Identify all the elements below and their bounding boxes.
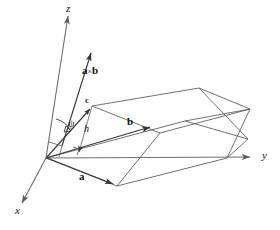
diagram-canvas xyxy=(0,0,280,230)
box-edge-top-left-front xyxy=(92,106,160,133)
x-axis-label: x xyxy=(15,205,20,216)
height-label-h: h xyxy=(84,124,89,134)
box-edge-top-back xyxy=(92,88,199,106)
y-axis xyxy=(46,157,250,158)
box-edge-bottom-right xyxy=(227,139,248,158)
angle-label-psi: ψ xyxy=(68,119,75,130)
box-edge-hidden-diag xyxy=(185,109,250,121)
x-axis xyxy=(22,158,46,203)
vector-b xyxy=(46,127,150,158)
box-edge-bottom-front xyxy=(117,158,227,186)
vector-a-cross-b-label: a×b xyxy=(82,61,98,77)
cross-label-b: b xyxy=(92,64,98,76)
coordinate-axes xyxy=(22,16,250,203)
z-axis-label: z xyxy=(66,3,70,14)
vector-a-label: a xyxy=(79,171,85,182)
vector-b-label: b xyxy=(127,116,133,127)
parallelepiped-wireframe xyxy=(46,88,250,186)
box-edge-side-front-right xyxy=(227,109,250,158)
box-edge-top-front xyxy=(160,109,250,133)
box-edge-top-right xyxy=(199,88,250,109)
box-edge-side-front-left xyxy=(117,133,160,186)
vector-c-label: c xyxy=(85,96,89,105)
y-axis-label: y xyxy=(262,150,267,161)
vector-diagram-figure: z y x a×b c b a h ψ xyxy=(0,0,280,230)
